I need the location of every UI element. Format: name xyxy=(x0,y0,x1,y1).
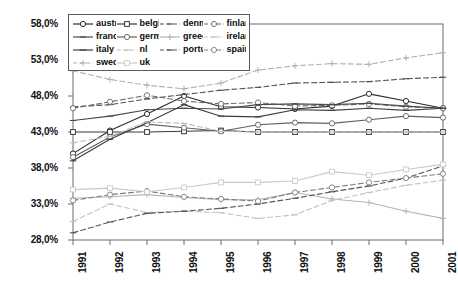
legend-label: uk xyxy=(140,58,151,67)
legend-marker-france xyxy=(72,32,94,42)
legend-marker-denmark xyxy=(159,19,181,29)
y-axis-label: 53,0% xyxy=(6,54,58,65)
legend-item-sweden[interactable]: sweden xyxy=(72,56,116,69)
series-greece xyxy=(70,189,446,221)
x-axis-label: 1995 xyxy=(225,252,236,273)
legend-label: portugal xyxy=(183,45,203,54)
legend-marker-spain xyxy=(203,45,225,55)
legend-label: france xyxy=(96,32,116,41)
legend-item-ireland[interactable]: ireland xyxy=(203,30,247,43)
x-axis-label: 1994 xyxy=(188,252,199,273)
legend-item-portugal[interactable]: portugal xyxy=(159,43,203,56)
x-axis-label: 1993 xyxy=(151,252,162,273)
legend-marker-finland xyxy=(203,19,225,29)
legend-label: nl xyxy=(140,45,148,54)
legend-item-italy[interactable]: italy xyxy=(72,43,116,56)
legend-item-finland[interactable]: finland xyxy=(203,17,247,30)
chart-legend: austriabelgiumdenmarkfinlandfrancegerman… xyxy=(68,14,250,71)
legend-marker-italy xyxy=(72,45,94,55)
x-axis-label: 1991 xyxy=(77,252,88,273)
x-axis-label: 1999 xyxy=(373,252,384,273)
y-axis-label: 58,0% xyxy=(6,18,58,29)
legend-marker-belgium xyxy=(116,19,138,29)
legend-item-germany[interactable]: germany xyxy=(116,30,160,43)
legend-label: italy xyxy=(96,45,114,54)
legend-item-uk[interactable]: uk xyxy=(116,56,160,69)
legend-label: austria xyxy=(96,19,116,28)
legend-item-denmark[interactable]: denmark xyxy=(159,17,203,30)
series-layer xyxy=(70,50,446,233)
y-axis-label: 43,0% xyxy=(6,126,58,137)
x-axis-label: 1998 xyxy=(336,252,347,273)
legend-label: sweden xyxy=(96,58,116,67)
series-uk xyxy=(71,162,446,194)
x-axis-label: 1997 xyxy=(299,252,310,273)
legend-marker-sweden xyxy=(72,58,94,68)
legend-marker-nl xyxy=(116,45,138,55)
legend-marker-greece xyxy=(159,32,181,42)
x-axis-label: 1996 xyxy=(262,252,273,273)
legend-label: greece xyxy=(183,32,203,41)
chart-container: 58,0%53,0%48,0%43,0%38,0%33,0%28,0% 1991… xyxy=(0,0,458,294)
legend-label: finland xyxy=(227,19,247,28)
y-axis-label: 33,0% xyxy=(6,198,58,209)
legend-item-nl[interactable]: nl xyxy=(116,43,160,56)
legend-item-france[interactable]: france xyxy=(72,30,116,43)
x-axis-label: 2000 xyxy=(410,252,421,273)
legend-marker-germany xyxy=(116,32,138,42)
x-axis-label: 1992 xyxy=(114,252,125,273)
y-axis-label: 28,0% xyxy=(6,234,58,245)
legend-label: denmark xyxy=(183,19,203,28)
legend-label: ireland xyxy=(227,32,247,41)
legend-marker-ireland xyxy=(203,32,225,42)
legend-item-spain[interactable]: spain xyxy=(203,43,247,56)
legend-item-belgium[interactable]: belgium xyxy=(116,17,160,30)
series-germany xyxy=(70,114,445,160)
legend-label: germany xyxy=(140,32,160,41)
x-axis-label: 2001 xyxy=(447,252,458,273)
legend-item-greece[interactable]: greece xyxy=(159,30,203,43)
y-axis-label: 48,0% xyxy=(6,90,58,101)
legend-label: belgium xyxy=(140,19,160,28)
legend-marker-uk xyxy=(116,58,138,68)
legend-marker-portugal xyxy=(159,45,181,55)
y-axis-label: 38,0% xyxy=(6,162,58,173)
legend-marker-austria xyxy=(72,19,94,29)
legend-item-austria[interactable]: austria xyxy=(72,17,116,30)
legend-grid: austriabelgiumdenmarkfinlandfrancegerman… xyxy=(72,17,246,69)
series-spain xyxy=(70,171,445,204)
legend-label: spain xyxy=(227,45,247,54)
